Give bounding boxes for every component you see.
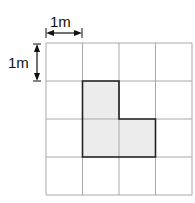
vertical-scale-label: 1m: [8, 54, 29, 71]
vertical-scale-arrow-icon: [33, 44, 41, 81]
grid-diagram: 1m 1m: [0, 0, 195, 203]
horizontal-scale-label: 1m: [50, 13, 71, 30]
